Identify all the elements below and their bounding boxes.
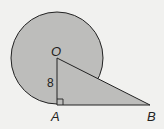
point-label-o: O xyxy=(51,44,61,59)
geometry-diagram: O A B 8 xyxy=(0,0,164,129)
point-label-b: B xyxy=(147,109,156,124)
diagram-canvas: O A B 8 xyxy=(0,0,164,129)
length-label-oa: 8 xyxy=(47,76,54,90)
point-label-a: A xyxy=(50,109,60,124)
